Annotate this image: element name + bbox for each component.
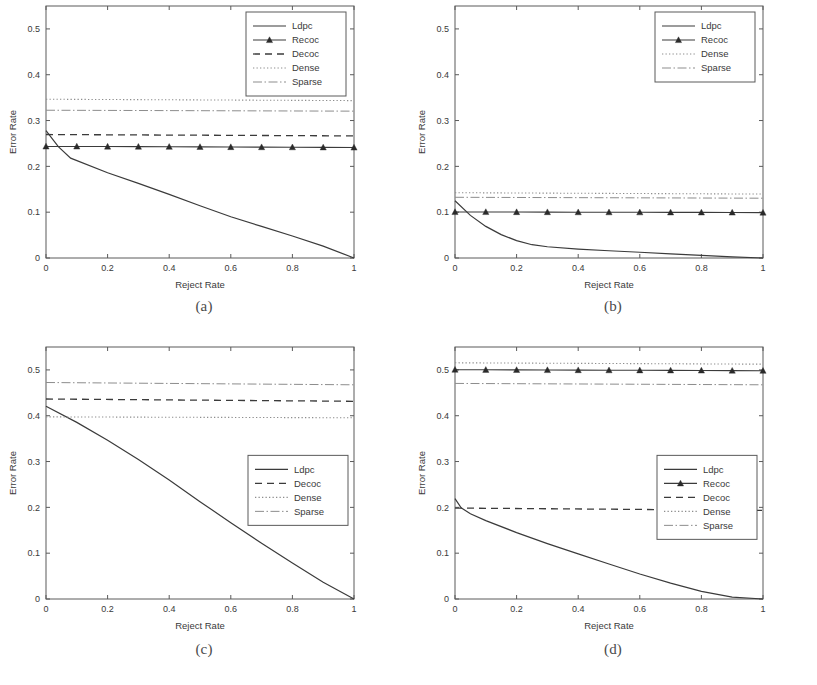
x-tick-label: 0.4 [163, 263, 176, 273]
y-tick-label: 0.2 [27, 503, 40, 513]
x-tick-label: 0.6 [634, 604, 647, 614]
y-tick-label: 0.1 [27, 548, 40, 558]
x-tick-label: 1 [351, 604, 356, 614]
series-line-sparse [46, 110, 354, 111]
x-tick-label: 0 [452, 604, 457, 614]
y-tick-label: 0 [35, 594, 40, 604]
y-axis-title: Error Rate [7, 110, 18, 154]
x-tick-label: 1 [760, 604, 765, 614]
series-line-decoc [46, 399, 354, 401]
y-tick-label: 0 [35, 253, 40, 263]
legend-label-decoc: Decoc [294, 478, 321, 489]
x-tick-label: 0.8 [695, 604, 708, 614]
x-tick-label: 1 [760, 263, 765, 273]
y-axis-title: Error Rate [416, 110, 427, 154]
y-tick-label: 0 [444, 594, 449, 604]
legend-label-recoc: Recoc [292, 34, 319, 45]
series-line-decoc [46, 135, 354, 136]
panel-a-caption: (a) [0, 298, 408, 315]
legend-label-ldpc: Ldpc [292, 20, 313, 31]
y-tick-label: 0.5 [27, 365, 40, 375]
panel-a: 00.20.40.60.8100.10.20.30.40.5Reject Rat… [0, 0, 408, 340]
y-tick-label: 0.4 [436, 411, 449, 421]
legend-label-sparse: Sparse [703, 520, 733, 531]
y-tick-label: 0.3 [436, 457, 449, 467]
chart-d: 00.20.40.60.8100.10.20.30.40.5Reject Rat… [409, 341, 817, 641]
y-tick-label: 0.1 [436, 207, 449, 217]
x-axis-title: Reject Rate [175, 620, 225, 631]
x-tick-label: 1 [351, 263, 356, 273]
x-tick-label: 0.8 [286, 263, 299, 273]
x-tick-label: 0 [43, 263, 48, 273]
y-tick-label: 0.4 [27, 70, 40, 80]
figure-panel-grid: 00.20.40.60.8100.10.20.30.40.5Reject Rat… [0, 0, 817, 685]
y-tick-label: 0.2 [436, 503, 449, 513]
y-tick-label: 0 [444, 253, 449, 263]
legend-label-ldpc: Ldpc [701, 20, 722, 31]
y-tick-label: 0.4 [436, 70, 449, 80]
x-tick-label: 0 [43, 604, 48, 614]
series-line-sparse [46, 383, 354, 385]
series-line-dense [46, 99, 354, 100]
x-tick-label: 0.4 [572, 263, 585, 273]
y-tick-label: 0.5 [436, 24, 449, 34]
x-tick-label: 0.2 [101, 263, 114, 273]
legend-label-dense: Dense [703, 506, 730, 517]
legend-label-recoc: Recoc [701, 34, 728, 45]
x-axis-title: Reject Rate [584, 620, 634, 631]
legend-label-sparse: Sparse [294, 506, 324, 517]
x-tick-label: 0.2 [101, 604, 114, 614]
legend-label-ldpc: Ldpc [703, 464, 724, 475]
panel-b: 00.20.40.60.8100.10.20.30.40.5Reject Rat… [409, 0, 817, 340]
x-axis-title: Reject Rate [175, 279, 225, 290]
chart-b: 00.20.40.60.8100.10.20.30.40.5Reject Rat… [409, 0, 817, 300]
series-line-sparse [455, 197, 763, 198]
page-bottom-artifact-strip [0, 672, 817, 685]
panel-c-caption: (c) [0, 641, 408, 658]
x-axis-title: Reject Rate [584, 279, 634, 290]
legend-label-sparse: Sparse [292, 76, 322, 87]
panel-d-caption: (d) [409, 641, 817, 658]
legend-label-ldpc: Ldpc [294, 464, 315, 475]
y-tick-label: 0.4 [27, 411, 40, 421]
panel-c: 00.20.40.60.8100.10.20.30.40.5Reject Rat… [0, 341, 408, 681]
panel-b-caption: (b) [409, 298, 817, 315]
x-tick-label: 0.2 [510, 604, 523, 614]
y-tick-label: 0.3 [27, 457, 40, 467]
series-line-dense [455, 193, 763, 194]
chart-c: 00.20.40.60.8100.10.20.30.40.5Reject Rat… [0, 341, 408, 641]
x-tick-label: 0.4 [572, 604, 585, 614]
panel-d: 00.20.40.60.8100.10.20.30.40.5Reject Rat… [409, 341, 817, 681]
y-tick-label: 0.2 [27, 162, 40, 172]
y-tick-label: 0.5 [27, 24, 40, 34]
y-tick-label: 0.2 [436, 162, 449, 172]
y-tick-label: 0.3 [27, 116, 40, 126]
series-line-ldpc [46, 131, 354, 258]
legend-label-decoc: Decoc [292, 48, 319, 59]
x-tick-label: 0 [452, 263, 457, 273]
legend-label-decoc: Decoc [703, 492, 730, 503]
y-tick-label: 0.5 [436, 365, 449, 375]
x-tick-label: 0.4 [163, 604, 176, 614]
legend-label-recoc: Recoc [703, 478, 730, 489]
legend-label-dense: Dense [294, 492, 321, 503]
y-tick-label: 0.3 [436, 116, 449, 126]
series-line-dense [455, 363, 763, 364]
x-tick-label: 0.8 [695, 263, 708, 273]
legend-label-dense: Dense [292, 62, 319, 73]
x-tick-label: 0.6 [225, 263, 238, 273]
legend-label-dense: Dense [701, 48, 728, 59]
y-axis-title: Error Rate [7, 451, 18, 495]
chart-a: 00.20.40.60.8100.10.20.30.40.5Reject Rat… [0, 0, 408, 300]
x-tick-label: 0.8 [286, 604, 299, 614]
legend-label-sparse: Sparse [701, 62, 731, 73]
x-tick-label: 0.6 [225, 604, 238, 614]
series-line-sparse [455, 383, 763, 384]
y-axis-title: Error Rate [416, 451, 427, 495]
y-tick-label: 0.1 [436, 548, 449, 558]
x-tick-label: 0.6 [634, 263, 647, 273]
x-tick-label: 0.2 [510, 263, 523, 273]
series-line-dense [46, 417, 354, 418]
y-tick-label: 0.1 [27, 207, 40, 217]
